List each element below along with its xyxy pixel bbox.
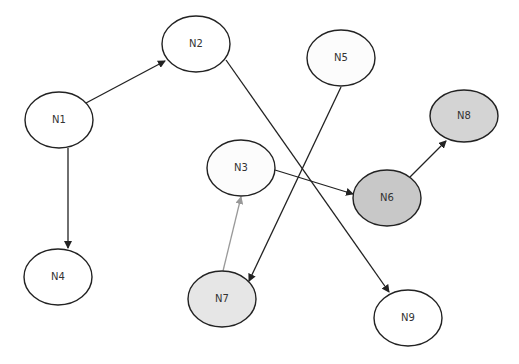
edge-n3-to-n6 <box>275 170 353 194</box>
node-label: N9 <box>401 312 415 323</box>
node-n9[interactable]: N9 <box>374 290 442 346</box>
node-n6[interactable]: N6 <box>353 170 421 226</box>
node-label: N1 <box>52 114 66 125</box>
edge-n6-to-n8 <box>410 141 446 177</box>
node-label: N2 <box>189 38 203 49</box>
node-n5[interactable]: N5 <box>307 30 375 86</box>
graph-canvas: N1N2N3N4N5N6N7N8N9 <box>0 0 519 364</box>
nodes-layer: N1N2N3N4N5N6N7N8N9 <box>24 16 498 346</box>
node-label: N4 <box>51 271 65 282</box>
node-label: N8 <box>457 110 471 121</box>
node-n1[interactable]: N1 <box>25 92 93 148</box>
node-label: N7 <box>215 293 229 304</box>
edge-n1-to-n2 <box>86 61 165 103</box>
node-n4[interactable]: N4 <box>24 249 92 305</box>
node-n8[interactable]: N8 <box>430 90 498 142</box>
node-n2[interactable]: N2 <box>162 16 230 72</box>
node-n7[interactable]: N7 <box>188 271 256 327</box>
node-label: N5 <box>334 52 348 63</box>
edge-n7-to-n3 <box>223 197 241 271</box>
node-label: N6 <box>380 192 394 203</box>
node-n3[interactable]: N3 <box>207 140 275 196</box>
node-label: N3 <box>234 162 248 173</box>
